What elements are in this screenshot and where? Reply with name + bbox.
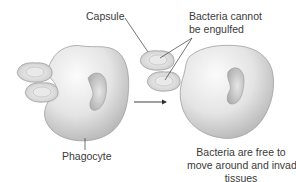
label-line: move around and invade (187, 159, 295, 172)
diagram-canvas: Capsule Bacteria cannot be engulfed Phag… (0, 0, 296, 182)
phagocyte-right (180, 45, 273, 138)
capsule-leader-line (125, 18, 148, 52)
bacteria-cannot-be-engulfed-label: Bacteria cannot be engulfed (189, 10, 265, 36)
phagocyte-label: Phagocyte (62, 150, 112, 163)
bacterium-right-bottom (147, 72, 180, 91)
cannot-leader-line-1 (160, 38, 192, 58)
bacterium-left-bottom (25, 83, 58, 102)
label-line: Bacteria cannot (189, 10, 265, 23)
bacteria-free-label: Bacteria are free to move around and inv… (187, 146, 295, 182)
bacterium-left-top (17, 63, 52, 82)
label-line: be engulfed (189, 23, 265, 36)
capsule-label: Capsule (86, 10, 125, 23)
bacterium-right-top (140, 51, 174, 70)
label-line: Bacteria are free to (187, 146, 295, 159)
label-line: tissues (187, 172, 295, 182)
